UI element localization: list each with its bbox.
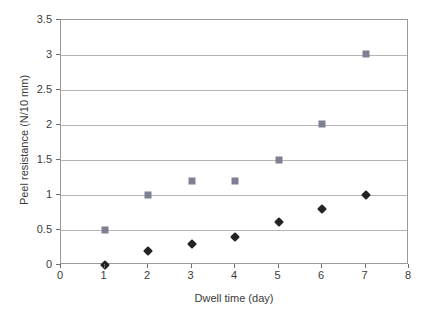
x-tick-label: 1 [100,270,106,281]
x-tick-label: 0 [57,270,63,281]
y-tick-mark [56,89,60,90]
data-point-diamond [187,239,197,249]
x-tick-label: 5 [274,270,280,281]
data-point-diamond [143,246,153,256]
data-point-square [319,120,326,127]
data-point-square [145,192,152,199]
x-axis-title: Dwell time (day) [60,292,408,304]
gridline [61,125,407,126]
y-axis-title: Peel resistance (N/10 mm) [18,60,30,220]
y-tick-label: 0.5 [37,224,52,235]
y-tick-label: 0 [46,259,52,270]
x-tick-mark [278,264,279,268]
y-tick-mark [56,194,60,195]
y-tick-label: 1 [46,189,52,200]
data-point-square [232,178,239,185]
x-tick-mark [60,264,61,268]
x-tick-label: 8 [405,270,411,281]
y-tick-label: 1.5 [37,154,52,165]
gridline [61,195,407,196]
gridline [61,55,407,56]
x-tick-mark [234,264,235,268]
data-point-square [275,157,282,164]
y-tick-label: 3.5 [37,14,52,25]
gridline [61,230,407,231]
y-tick-mark [56,54,60,55]
x-tick-mark [147,264,148,268]
y-tick-mark [56,159,60,160]
x-tick-mark [104,264,105,268]
data-point-diamond [274,217,284,227]
x-tick-mark [321,264,322,268]
y-tick-mark [56,229,60,230]
x-tick-label: 7 [361,270,367,281]
gridline [61,160,407,161]
data-point-diamond [317,204,327,214]
x-tick-mark [365,264,366,268]
x-tick-label: 2 [144,270,150,281]
data-point-square [362,50,369,57]
y-tick-label: 3 [46,49,52,60]
x-tick-mark [408,264,409,268]
scatter-chart: 00.511.522.533.5 012345678 Dwell time (d… [0,0,427,321]
plot-area [60,19,408,264]
x-tick-label: 3 [187,270,193,281]
data-point-diamond [361,190,371,200]
y-tick-mark [56,19,60,20]
x-tick-label: 4 [231,270,237,281]
y-tick-mark [56,124,60,125]
data-point-square [101,227,108,234]
x-tick-label: 6 [318,270,324,281]
y-tick-label: 2.5 [37,84,52,95]
data-point-square [188,178,195,185]
data-point-diamond [230,232,240,242]
gridline [61,90,407,91]
y-tick-label: 2 [46,119,52,130]
x-tick-mark [191,264,192,268]
